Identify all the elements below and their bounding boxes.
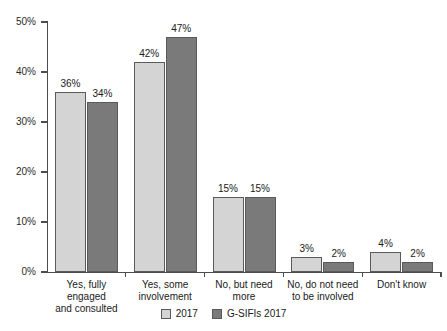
bar-value-label: 2% <box>314 249 363 259</box>
legend-label: G-SIFIs 2017 <box>227 309 286 319</box>
bar-value-label: 47% <box>157 24 206 34</box>
x-axis-category-label-line: involvement <box>126 291 205 303</box>
bar-chart: 0%10%20%30%40%50% 36%34%42%47%15%15%3%2%… <box>0 0 447 331</box>
legend-item: G-SIFIs 2017 <box>212 309 286 319</box>
bar <box>291 257 322 272</box>
x-axis-category-label: Yes, someinvolvement <box>126 279 205 303</box>
y-axis-tick-label: 20% <box>16 167 36 177</box>
legend-label: 2017 <box>176 309 198 319</box>
y-axis-tick-label: 30% <box>16 117 36 127</box>
x-axis-category-label-line: Yes, some <box>126 279 205 291</box>
bar-value-label: 34% <box>78 89 127 99</box>
x-axis-category-label-line: Yes, fully engaged <box>47 279 126 303</box>
bar <box>245 197 276 272</box>
bar-value-label: 2% <box>393 249 442 259</box>
x-axis-category-label: No, do not needto be involved <box>283 279 362 303</box>
legend-swatch-icon <box>161 309 171 319</box>
y-axis-tick-label: 40% <box>16 67 36 77</box>
bar <box>55 92 86 272</box>
bar <box>323 262 354 272</box>
bar <box>87 102 118 272</box>
bar <box>213 197 244 272</box>
bar-value-label: 36% <box>46 79 95 89</box>
chart-legend: 2017G-SIFIs 2017 <box>0 309 447 319</box>
x-axis-category-label-line: to be involved <box>283 291 362 303</box>
x-axis-category-label-line: Don't know <box>362 279 441 291</box>
x-axis-category-label-line: No, do not need <box>283 279 362 291</box>
x-axis-category-label: No, but need more <box>205 279 284 303</box>
y-axis-line <box>47 21 48 273</box>
y-axis-tick-label: 0% <box>22 267 36 277</box>
bar <box>166 37 197 272</box>
x-axis-category-label: Don't know <box>362 279 441 291</box>
legend-swatch-icon <box>212 309 222 319</box>
y-axis-tick-label: 10% <box>16 217 36 227</box>
bar <box>134 62 165 272</box>
bar-value-label: 4% <box>361 239 410 249</box>
bar <box>402 262 433 272</box>
x-axis-category-label-line: No, but need more <box>205 279 284 303</box>
legend-item: 2017 <box>161 309 198 319</box>
bar-value-label: 15% <box>236 184 285 194</box>
y-axis-tick-label: 50% <box>16 17 36 27</box>
x-axis-line <box>47 272 441 273</box>
